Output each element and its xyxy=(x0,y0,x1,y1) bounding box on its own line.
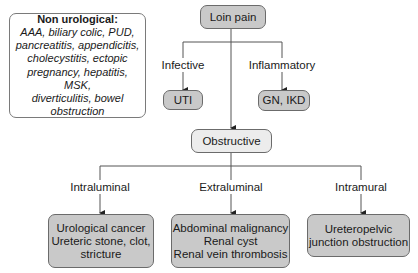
node-uti: UTI xyxy=(163,90,203,110)
non-urological-title: Non urological: xyxy=(37,13,118,26)
edge-label-infective: Infective xyxy=(162,59,205,72)
node-intraluminal: Urological cancer Ureteric stone, clot, … xyxy=(48,214,154,268)
non-urological-box: Non urological: AAA, biliary colic, PUD,… xyxy=(9,13,146,118)
root-node-label: Loin pain xyxy=(210,11,257,24)
loin-pain-flowchart: Non urological: AAA, biliary colic, PUD,… xyxy=(0,0,418,273)
root-node-loin-pain: Loin pain xyxy=(200,5,266,29)
node-gn-ikd-label: GN, IKD xyxy=(263,94,306,107)
non-urological-line: cholecystitis, ectopic xyxy=(27,52,127,65)
node-obstructive: Obstructive xyxy=(191,129,272,153)
node-uti-label: UTI xyxy=(174,94,193,107)
node-extraluminal: Abdominal malignancy Renal cyst Renal ve… xyxy=(171,214,290,268)
edge-label-intramural: Intramural xyxy=(335,181,387,194)
node-line: Abdominal malignancy xyxy=(173,222,289,235)
edge-label-intraluminal: Intraluminal xyxy=(70,181,129,194)
non-urological-line: diverticulitis, bowel xyxy=(32,92,124,105)
node-line: Renal cyst xyxy=(204,235,258,248)
node-line: Urological cancer xyxy=(57,222,146,235)
node-gn-ikd: GN, IKD xyxy=(258,90,310,111)
node-line: stricture xyxy=(81,248,122,261)
non-urological-line: obstruction xyxy=(51,105,105,118)
node-line: junction obstruction xyxy=(309,236,408,249)
non-urological-line: pancreatitis, appendicitis, xyxy=(16,39,140,52)
node-line: Renal vein thrombosis xyxy=(174,248,288,261)
non-urological-line: pregnancy, hepatitis, MSK, xyxy=(14,66,141,92)
node-obstructive-label: Obstructive xyxy=(202,135,260,148)
node-line: Ureteropelvic xyxy=(325,223,393,236)
non-urological-line: AAA, biliary colic, PUD, xyxy=(20,26,134,39)
edge-label-inflammatory: Inflammatory xyxy=(249,59,315,72)
edge-label-extraluminal: Extraluminal xyxy=(199,181,262,194)
node-intramural: Ureteropelvic junction obstruction xyxy=(307,214,410,257)
node-line: Ureteric stone, clot, xyxy=(51,235,150,248)
